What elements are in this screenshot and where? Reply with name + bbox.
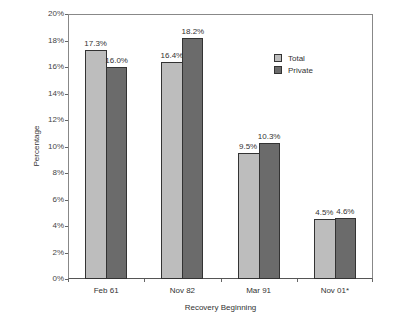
bar-private	[259, 143, 280, 279]
x-tick-mark	[297, 279, 298, 282]
y-tick-label: 14%	[0, 89, 64, 98]
y-tick-label: 20%	[0, 9, 64, 18]
y-tick-label: 12%	[0, 115, 64, 124]
x-tick-mark	[372, 279, 373, 282]
y-tick-mark	[65, 173, 68, 174]
x-tick-mark	[221, 279, 222, 282]
legend-label-total: Total	[288, 54, 305, 63]
y-tick-mark	[65, 94, 68, 95]
x-tick-label: Mar 91	[229, 286, 289, 295]
x-axis-title: Recovery Beginning	[68, 303, 373, 312]
bar-private	[182, 38, 203, 279]
y-tick-mark	[65, 226, 68, 227]
y-tick-mark	[65, 200, 68, 201]
legend: Total Private	[274, 52, 313, 76]
y-tick-mark	[65, 147, 68, 148]
x-tick-label: Nov 82	[152, 286, 212, 295]
y-tick-mark	[65, 253, 68, 254]
data-label: 17.3%	[81, 39, 111, 48]
y-tick-label: 8%	[0, 168, 64, 177]
data-label: 10.3%	[254, 132, 284, 141]
y-tick-label: 2%	[0, 248, 64, 257]
bar-private	[106, 67, 127, 279]
x-tick-mark	[144, 279, 145, 282]
x-tick-label: Feb 61	[76, 286, 136, 295]
y-axis-title: Percentage	[32, 126, 41, 167]
legend-item-total: Total	[274, 52, 313, 64]
y-tick-mark	[65, 67, 68, 68]
y-tick-label: 16%	[0, 62, 64, 71]
y-tick-mark	[65, 41, 68, 42]
data-label: 16.0%	[102, 56, 132, 65]
y-tick-mark	[65, 14, 68, 15]
y-tick-label: 18%	[0, 36, 64, 45]
legend-swatch-total	[274, 54, 282, 62]
bar-private	[335, 218, 356, 279]
bar-total	[314, 219, 336, 279]
legend-item-private: Private	[274, 64, 313, 76]
bar-total	[238, 153, 260, 279]
y-tick-label: 4%	[0, 221, 64, 230]
x-tick-label: Nov 01*	[305, 286, 365, 295]
y-tick-label: 6%	[0, 195, 64, 204]
legend-label-private: Private	[288, 66, 313, 75]
x-tick-mark	[68, 279, 69, 282]
bar-total	[85, 50, 107, 279]
legend-swatch-private	[274, 66, 282, 74]
y-tick-mark	[65, 120, 68, 121]
data-label: 18.2%	[178, 27, 208, 36]
bar-total	[161, 62, 183, 279]
data-label: 4.6%	[330, 207, 360, 216]
y-tick-label: 0%	[0, 274, 64, 283]
